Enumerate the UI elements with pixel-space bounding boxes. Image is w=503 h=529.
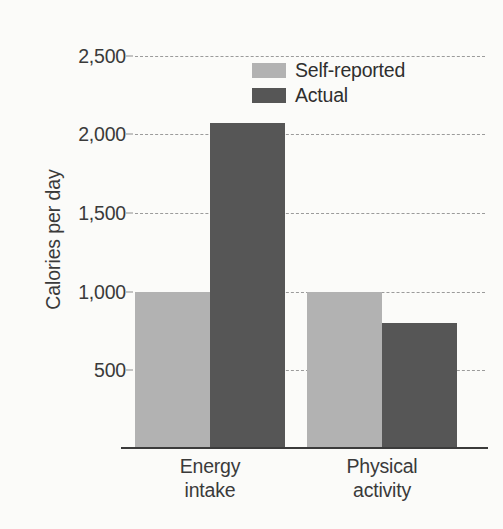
legend-label: Actual	[295, 84, 348, 107]
x-axis-category-label: Energyintake	[120, 455, 300, 503]
y-axis-tick-mark	[126, 55, 133, 56]
bar-self-reported-physical-activity	[307, 292, 382, 449]
y-axis-tick-label: 1,500	[78, 202, 126, 225]
y-axis-tick-mark	[126, 134, 133, 135]
legend-label: Self-reported	[295, 59, 405, 82]
x-axis-category-label: Physicalactivity	[292, 455, 472, 503]
x-axis-category-label-line: intake	[120, 479, 300, 503]
gridline	[135, 213, 485, 214]
y-axis-title: Calories per day	[42, 110, 65, 370]
bar-self-reported-energy-intake	[135, 292, 210, 449]
bar-actual-physical-activity	[382, 323, 457, 449]
y-axis-tick-mark	[126, 291, 133, 292]
y-axis-tick-label: 500	[94, 359, 126, 382]
gridline	[135, 134, 485, 135]
bar-actual-energy-intake	[210, 123, 285, 449]
legend-swatch-icon	[252, 88, 286, 103]
legend-item: Self-reported	[252, 58, 405, 83]
x-axis-category-label-line: Energy	[120, 455, 300, 479]
legend-swatch-icon	[252, 63, 286, 78]
bar-chart-figure: Calories per day 5001,0001,5002,0002,500…	[0, 0, 503, 529]
legend-item: Actual	[252, 83, 405, 108]
x-axis-category-label-line: Physical	[292, 455, 472, 479]
y-axis-tick-label: 1,000	[78, 280, 126, 303]
gridline	[135, 56, 485, 57]
x-axis-line	[121, 447, 488, 449]
y-axis-tick-label: 2,500	[78, 44, 126, 67]
y-axis-tick-mark	[126, 370, 133, 371]
y-axis-tick-label: 2,000	[78, 123, 126, 146]
y-axis-tick-mark	[126, 213, 133, 214]
chart-legend: Self-reportedActual	[252, 58, 405, 108]
x-axis-category-label-line: activity	[292, 479, 472, 503]
